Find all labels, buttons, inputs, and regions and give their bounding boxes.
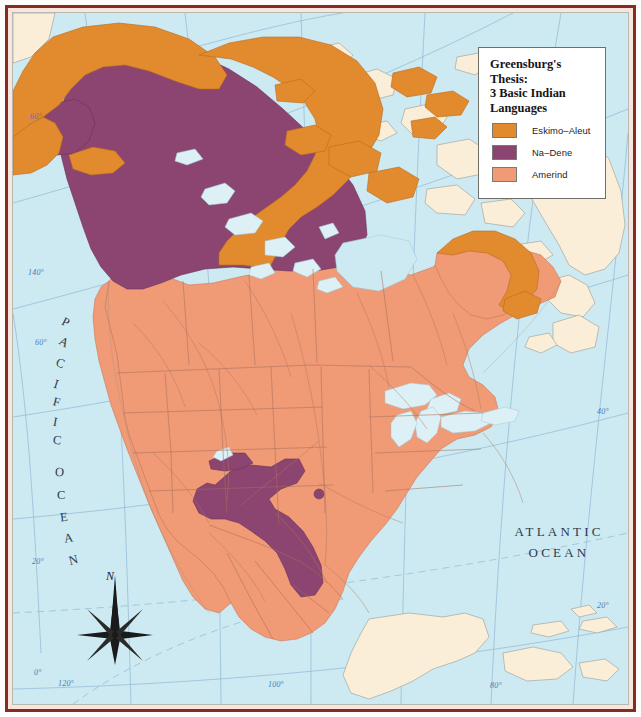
graticule-label: 140°: [28, 268, 44, 277]
legend-swatch-amerind: [492, 167, 517, 182]
compass-star-icon: [73, 569, 157, 669]
graticule-label: 100°: [268, 680, 284, 689]
map-page: 60° 140° 60° 20° 0° 120° 100° 80° 60° 40…: [0, 0, 641, 717]
legend-label-eskimo-aleut: Eskimo–Aleut: [532, 125, 591, 136]
legend-title-line-1: Greensburg's Thesis:: [490, 57, 596, 86]
legend-item-amerind[interactable]: Amerind: [492, 167, 596, 182]
map-legend[interactable]: Greensburg's Thesis: 3 Basic Indian Lang…: [478, 47, 606, 199]
legend-swatch-eskimo-aleut: [492, 123, 517, 138]
atlantic-ocean-line1: ATLANTIC: [489, 521, 628, 542]
pacific-ocean-label: P A C I F I C O C E A N: [53, 313, 83, 543]
compass-rose: N: [73, 569, 157, 669]
legend-label-amerind: Amerind: [532, 169, 568, 180]
graticule-label: 80°: [490, 681, 502, 690]
graticule-label: 120°: [58, 679, 74, 688]
legend-label-na-dene: Na–Dene: [532, 147, 572, 158]
legend-item-eskimo-aleut[interactable]: Eskimo–Aleut: [492, 123, 596, 138]
graticule-label: 20°: [32, 557, 44, 566]
map-canvas[interactable]: 60° 140° 60° 20° 0° 120° 100° 80° 60° 40…: [13, 13, 628, 704]
graticule-label: 20°: [597, 601, 609, 610]
graticule-label: 60°: [35, 338, 47, 347]
atlantic-ocean-label: ATLANTIC OCEAN: [489, 521, 628, 563]
legend-title-line-3: Languages: [490, 101, 596, 116]
legend-item-na-dene[interactable]: Na–Dene: [492, 145, 596, 160]
atlantic-ocean-line2: OCEAN: [489, 542, 628, 563]
legend-swatch-na-dene: [492, 145, 517, 160]
legend-title: Greensburg's Thesis: 3 Basic Indian Lang…: [490, 57, 596, 115]
graticule-label: 40°: [597, 407, 609, 416]
graticule-label: 60°: [30, 112, 42, 121]
graticule-label: 0°: [34, 668, 42, 677]
legend-title-line-2: 3 Basic Indian: [490, 86, 596, 101]
compass-north-label: N: [106, 569, 114, 584]
